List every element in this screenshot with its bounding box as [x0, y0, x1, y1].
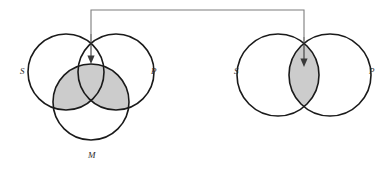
venn-diagram-canvas: S P M S P: [0, 0, 389, 169]
bracket-connector: [91, 10, 304, 37]
left-label-s: S: [20, 66, 25, 76]
right-label-p: P: [368, 66, 375, 76]
left-label-p: P: [150, 66, 157, 76]
right-label-s: S: [234, 66, 239, 76]
left-label-m: M: [87, 150, 96, 160]
venn-diagram-figure: S P M S P: [0, 0, 389, 169]
left-down-arrow-icon: [87, 34, 94, 64]
